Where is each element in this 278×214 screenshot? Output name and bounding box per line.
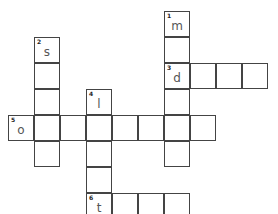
crossword-cell[interactable]	[164, 89, 190, 115]
crossword-cell[interactable]	[164, 141, 190, 167]
clue-number: 2	[37, 38, 41, 45]
crossword-cell[interactable]	[138, 193, 164, 214]
crossword-cell[interactable]	[34, 63, 60, 89]
crossword-cell[interactable]	[34, 115, 60, 141]
crossword-cell[interactable]	[164, 115, 190, 141]
crossword-cell[interactable]	[242, 63, 268, 89]
crossword-cell[interactable]	[86, 141, 112, 167]
clue-number: 3	[167, 64, 171, 71]
crossword-cell[interactable]: 3d	[164, 63, 190, 89]
crossword-cell[interactable]: 4l	[86, 89, 112, 115]
clue-number: 5	[11, 116, 15, 123]
clue-number: 6	[89, 194, 93, 201]
crossword-cell[interactable]	[34, 141, 60, 167]
crossword-cell[interactable]	[86, 167, 112, 193]
crossword-cell[interactable]	[86, 115, 112, 141]
clue-number: 1	[167, 12, 171, 19]
cell-letter: o	[9, 123, 33, 137]
crossword-cell[interactable]	[190, 63, 216, 89]
crossword-cell[interactable]: 5o	[8, 115, 34, 141]
crossword-cell[interactable]	[216, 63, 242, 89]
crossword-cell[interactable]	[112, 193, 138, 214]
crossword-cell[interactable]: 2s	[34, 37, 60, 63]
crossword-cell[interactable]: 6t	[86, 193, 112, 214]
clue-number: 4	[89, 90, 93, 97]
cell-letter: m	[165, 19, 189, 33]
crossword-cell[interactable]	[138, 115, 164, 141]
crossword-cell[interactable]	[164, 37, 190, 63]
cell-letter: t	[87, 201, 111, 214]
crossword-cell[interactable]: 1m	[164, 11, 190, 37]
crossword-cell[interactable]	[60, 115, 86, 141]
crossword-cell[interactable]	[112, 115, 138, 141]
crossword-cell[interactable]	[190, 115, 216, 141]
cell-letter: l	[87, 97, 111, 111]
cell-letter: s	[35, 45, 59, 59]
crossword-cell[interactable]	[34, 89, 60, 115]
crossword-cell[interactable]	[164, 193, 190, 214]
cell-letter: d	[165, 71, 189, 85]
